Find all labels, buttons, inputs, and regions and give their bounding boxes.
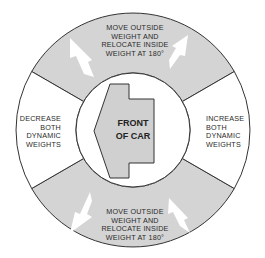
left-label-line-4: WEIGHTS [18,141,61,150]
front-of-car-label: FRONT OF CAR [110,117,156,143]
top-label-line-4: WEIGHT AT 180° [95,50,175,59]
bottom-label-line-4: WEIGHT AT 180° [95,234,175,243]
right-segment-label: INCREASE BOTH DYNAMIC WEIGHTS [206,115,251,149]
front-of-car-line-2: OF CAR [110,130,156,143]
top-segment-label: MOVE OUTSIDE WEIGHT AND RELOCATE INSIDE … [95,24,175,58]
left-segment-label: DECREASE BOTH DYNAMIC WEIGHTS [18,115,61,149]
front-of-car-line-1: FRONT [110,117,156,130]
bottom-segment-label: MOVE OUTSIDE WEIGHT AND RELOCATE INSIDE … [95,208,175,242]
right-label-line-4: WEIGHTS [206,141,251,150]
